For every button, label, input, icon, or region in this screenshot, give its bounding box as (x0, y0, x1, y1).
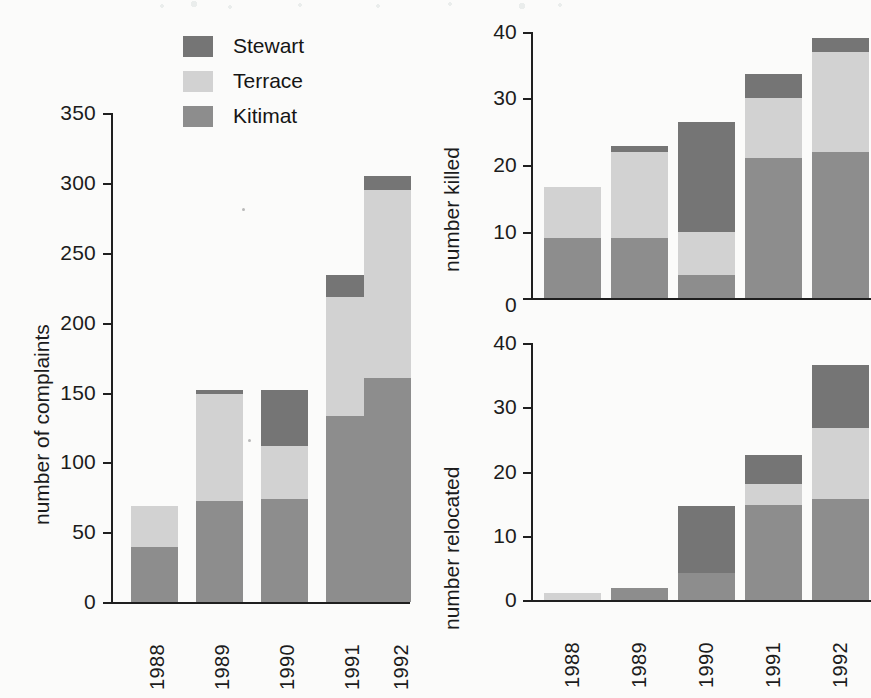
bar-segment-terrace (261, 446, 308, 499)
bar-1990-relocated (678, 506, 735, 600)
y-tick-40 (523, 343, 531, 345)
bar-1991-relocated (745, 455, 802, 600)
bar-1989-killed (611, 146, 668, 298)
x-tick-label-1991: 1991 (762, 642, 785, 688)
bar-1988-complaints (131, 506, 178, 602)
x-tick-label-1992: 1992 (829, 642, 852, 688)
y-tick-0 (523, 298, 531, 300)
bar-segment-kitimat (611, 238, 668, 298)
bar-1990-killed (678, 122, 735, 298)
bar-segment-kitimat (261, 499, 308, 602)
y-axis-killed (531, 32, 533, 300)
bar-1992-complaints (364, 176, 411, 602)
y-tick-300 (103, 183, 111, 185)
y-tick-label-20: 20 (445, 460, 517, 484)
x-axis-relocated (531, 600, 871, 602)
bar-segment-kitimat (812, 152, 869, 298)
y-tick-label-150: 150 (20, 381, 96, 405)
x-tick-label-1990: 1990 (695, 642, 718, 688)
y-tick-30 (523, 407, 531, 409)
bar-segment-terrace (544, 187, 601, 238)
bar-1989-complaints (196, 390, 243, 602)
bar-segment-terrace (544, 593, 601, 600)
bar-segment-stewart (196, 390, 243, 394)
bar-segment-stewart (364, 176, 411, 190)
bar-segment-terrace (678, 232, 735, 275)
y-tick-label-0: 0 (445, 293, 517, 317)
figure-root: Stewart Terrace Kitimat number of compla… (0, 0, 871, 698)
x-tick-label-1991: 1991 (341, 644, 364, 690)
bar-segment-terrace (131, 506, 178, 547)
bar-segment-kitimat (812, 499, 869, 600)
x-tick-label-1988: 1988 (561, 642, 584, 688)
plot-area-complaints: 350 300 250 200 150 100 50 0 (0, 0, 435, 698)
y-tick-label-20: 20 (445, 153, 517, 177)
bar-segment-stewart (261, 390, 308, 446)
y-tick-label-300: 300 (20, 171, 96, 195)
bar-segment-stewart (678, 506, 735, 573)
y-tick-20 (523, 472, 531, 474)
x-tick-label-1990: 1990 (276, 644, 299, 690)
x-tick-label-1989: 1989 (628, 642, 651, 688)
y-tick-label-10: 10 (445, 524, 517, 548)
y-tick-label-0: 0 (20, 590, 96, 614)
y-tick-10 (523, 536, 531, 538)
bar-segment-terrace (812, 52, 869, 152)
chart-panel-relocated: number relocated 40 30 20 10 0 (435, 330, 871, 698)
y-tick-label-40: 40 (445, 20, 517, 44)
y-tick-150 (103, 393, 111, 395)
bar-segment-kitimat (678, 275, 735, 298)
bar-segment-terrace (745, 484, 802, 505)
bar-segment-kitimat (611, 588, 668, 600)
x-axis-complaints (111, 602, 410, 604)
y-tick-30 (523, 98, 531, 100)
bar-1990-complaints (261, 390, 308, 602)
chart-panel-killed: number killed 40 30 20 10 0 (435, 0, 871, 330)
bar-segment-kitimat (745, 505, 802, 600)
plot-area-relocated: 40 30 20 10 0 (435, 330, 871, 698)
y-tick-40 (523, 32, 531, 34)
x-tick-label-1988: 1988 (146, 644, 169, 690)
x-tick-label-1992: 1992 (390, 644, 413, 690)
y-tick-label-30: 30 (445, 86, 517, 110)
x-axis-killed (531, 298, 871, 300)
bar-segment-terrace (611, 152, 668, 238)
y-tick-label-0: 0 (445, 588, 517, 612)
bar-1992-killed (812, 38, 869, 298)
chart-panel-complaints: Stewart Terrace Kitimat number of compla… (0, 0, 435, 698)
bar-segment-kitimat (544, 238, 601, 298)
bar-1991-killed (745, 74, 802, 298)
bar-segment-terrace (364, 190, 411, 378)
y-tick-20 (523, 165, 531, 167)
y-tick-label-250: 250 (20, 241, 96, 265)
bar-segment-kitimat (364, 378, 411, 602)
y-tick-label-50: 50 (20, 520, 96, 544)
bar-1992-relocated (812, 365, 869, 600)
y-tick-label-100: 100 (20, 450, 96, 474)
y-tick-350 (103, 113, 111, 115)
y-tick-label-200: 200 (20, 311, 96, 335)
bar-segment-kitimat (678, 573, 735, 600)
bar-segment-kitimat (131, 547, 178, 602)
y-tick-0 (103, 602, 111, 604)
y-tick-label-30: 30 (445, 395, 517, 419)
bar-1988-killed (544, 187, 601, 298)
bar-segment-terrace (812, 428, 869, 499)
bar-segment-terrace (196, 394, 243, 501)
bar-segment-stewart (678, 122, 735, 232)
y-axis-relocated (531, 343, 533, 602)
bar-segment-stewart (745, 455, 802, 484)
bar-segment-kitimat (196, 501, 243, 602)
y-axis-complaints (111, 113, 113, 604)
bar-1988-relocated (544, 593, 601, 600)
y-tick-0 (523, 600, 531, 602)
y-tick-200 (103, 323, 111, 325)
y-tick-label-10: 10 (445, 220, 517, 244)
bar-segment-stewart (812, 38, 869, 52)
y-tick-50 (103, 532, 111, 534)
plot-area-killed: 40 30 20 10 0 (435, 0, 871, 330)
bar-1989-relocated (611, 588, 668, 600)
y-tick-250 (103, 253, 111, 255)
bar-segment-terrace (745, 98, 802, 158)
bar-segment-stewart (812, 365, 869, 428)
